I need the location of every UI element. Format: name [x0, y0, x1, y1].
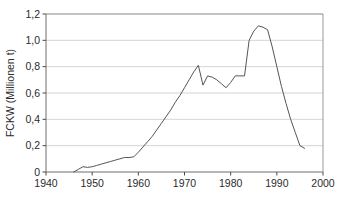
x-tick-label: 1950	[80, 177, 104, 189]
y-axis-title: FCKW (Millionen t)	[4, 49, 16, 137]
x-tick-label: 1980	[219, 177, 243, 189]
y-tick-label: 0,8	[25, 60, 40, 72]
y-tick-label: 1,2	[25, 8, 40, 20]
y-tick-label: 0,4	[25, 113, 40, 125]
x-tick-label: 1960	[127, 177, 151, 189]
x-tick-label: 1940	[34, 177, 58, 189]
chart-background	[0, 0, 345, 199]
y-tick-label: 1,0	[25, 34, 40, 46]
x-tick-label: 2000	[311, 177, 335, 189]
x-tick-label: 1970	[173, 177, 197, 189]
y-tick-label: 0	[34, 166, 40, 178]
chart-container: 00,20,40,60,81,01,2 19401950196019701980…	[0, 0, 345, 199]
fckw-line-chart: 00,20,40,60,81,01,2 19401950196019701980…	[0, 0, 345, 199]
x-tick-label: 1990	[265, 177, 289, 189]
y-tick-label: 0,6	[25, 87, 40, 99]
y-tick-label: 0,2	[25, 139, 40, 151]
